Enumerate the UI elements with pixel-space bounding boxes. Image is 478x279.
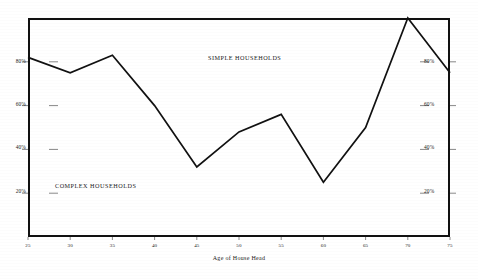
chart-figure: 80% 60% 40% 20% 80% 60% 40% 20% 25 30 35… [0, 0, 478, 279]
x-axis-ticks [28, 237, 450, 240]
x-tick-30: 30 [68, 243, 73, 248]
y-tick-left-40: 40% [0, 145, 26, 150]
annotation-simple-households: SIMPLE HOUSEHOLDS [208, 55, 281, 61]
x-tick-60: 60 [321, 243, 326, 248]
annotation-complex-households: COMPLEX HOUSEHOLDS [55, 183, 136, 189]
x-tick-65: 65 [363, 243, 368, 248]
y-tick-right-40: 40% [424, 145, 454, 150]
x-tick-35: 35 [110, 243, 115, 248]
y-tick-right-80: 80% [424, 59, 454, 64]
y-tick-right-20: 20% [424, 189, 454, 194]
y-tick-left-80: 80% [0, 59, 26, 64]
x-tick-55: 55 [279, 243, 284, 248]
x-axis-title: Age of House Head [0, 255, 478, 261]
x-tick-75: 75 [447, 243, 452, 248]
x-tick-70: 70 [405, 243, 410, 248]
y-tick-left-20: 20% [0, 189, 26, 194]
x-tick-45: 45 [194, 243, 199, 248]
y-tick-left-60: 60% [0, 102, 26, 107]
x-tick-40: 40 [152, 243, 157, 248]
x-tick-25: 25 [25, 243, 30, 248]
x-tick-50: 50 [236, 243, 241, 248]
y-tick-right-60: 60% [424, 102, 454, 107]
plot-frame [28, 18, 450, 237]
